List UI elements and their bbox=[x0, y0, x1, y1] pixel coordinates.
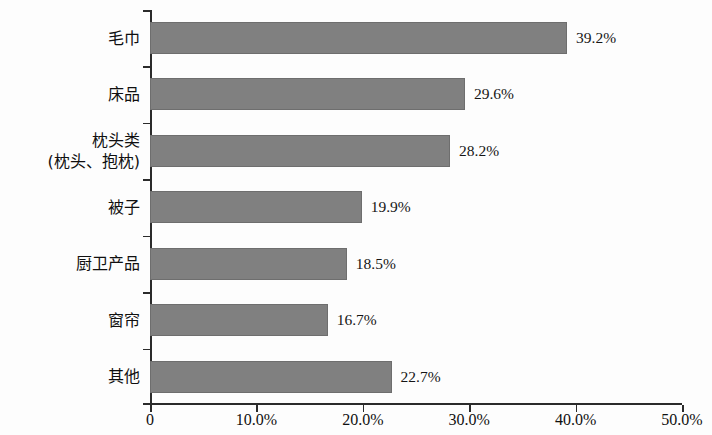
y-axis-tick bbox=[143, 10, 150, 12]
x-axis-tick-label: 30.0% bbox=[429, 410, 509, 430]
bar-value-label: 18.5% bbox=[356, 249, 396, 279]
y-axis-tick bbox=[143, 349, 150, 351]
y-axis-tick bbox=[143, 403, 150, 405]
bar-value-label: 22.7% bbox=[401, 362, 441, 392]
y-axis-tick bbox=[143, 179, 150, 181]
bar-value-label: 19.9% bbox=[371, 192, 411, 222]
bar-value-label: 39.2% bbox=[576, 23, 616, 53]
category-label-line1: 厨卫产品 bbox=[76, 254, 140, 273]
category-label: 厨卫产品 bbox=[0, 253, 140, 274]
category-label: 窗帘 bbox=[0, 310, 140, 331]
bar-row: 19.9% bbox=[150, 179, 682, 235]
y-axis-tick bbox=[143, 236, 150, 238]
category-label: 被子 bbox=[0, 197, 140, 218]
y-axis-tick bbox=[143, 123, 150, 125]
category-label: 床品 bbox=[0, 84, 140, 105]
bar-value-label: 29.6% bbox=[474, 79, 514, 109]
bar-row: 22.7% bbox=[150, 349, 682, 405]
bar[interactable] bbox=[150, 191, 362, 223]
category-label-line1: 其他 bbox=[108, 367, 140, 386]
bar-value-label: 28.2% bbox=[459, 136, 499, 166]
x-axis-tick-label: 50.0% bbox=[642, 410, 712, 430]
bar-row: 16.7% bbox=[150, 292, 682, 348]
category-label-line1: 枕头类 bbox=[92, 131, 140, 150]
category-label-line1: 毛巾 bbox=[108, 29, 140, 48]
category-label-line1: 床品 bbox=[108, 85, 140, 104]
bar[interactable] bbox=[150, 135, 450, 167]
bar-value-label: 16.7% bbox=[337, 305, 377, 335]
y-axis-tick bbox=[143, 292, 150, 294]
category-label: 毛巾 bbox=[0, 28, 140, 49]
y-axis-tick bbox=[143, 66, 150, 68]
x-axis-tick-label: 40.0% bbox=[536, 410, 616, 430]
category-label: 其他 bbox=[0, 366, 140, 387]
bar-chart: 39.2%29.6%28.2%19.9%18.5%16.7%22.7% 毛巾床品… bbox=[0, 0, 712, 435]
category-label-line2: (枕头、抱枕) bbox=[0, 151, 140, 172]
bar[interactable] bbox=[150, 304, 328, 336]
x-axis-tick-label: 20.0% bbox=[323, 410, 403, 430]
bar-row: 29.6% bbox=[150, 66, 682, 122]
bar[interactable] bbox=[150, 78, 465, 110]
bar[interactable] bbox=[150, 22, 567, 54]
category-label-line1: 窗帘 bbox=[108, 311, 140, 330]
x-axis-tick-label: 10.0% bbox=[216, 410, 296, 430]
bar[interactable] bbox=[150, 361, 392, 393]
category-label: 枕头类(枕头、抱枕) bbox=[0, 130, 140, 172]
bar-row: 28.2% bbox=[150, 123, 682, 179]
x-axis-tick-label: 0 bbox=[110, 410, 190, 430]
plot-area: 39.2%29.6%28.2%19.9%18.5%16.7%22.7% bbox=[150, 10, 682, 405]
bar-row: 18.5% bbox=[150, 236, 682, 292]
bar[interactable] bbox=[150, 248, 347, 280]
category-label-line1: 被子 bbox=[108, 198, 140, 217]
bar-row: 39.2% bbox=[150, 10, 682, 66]
